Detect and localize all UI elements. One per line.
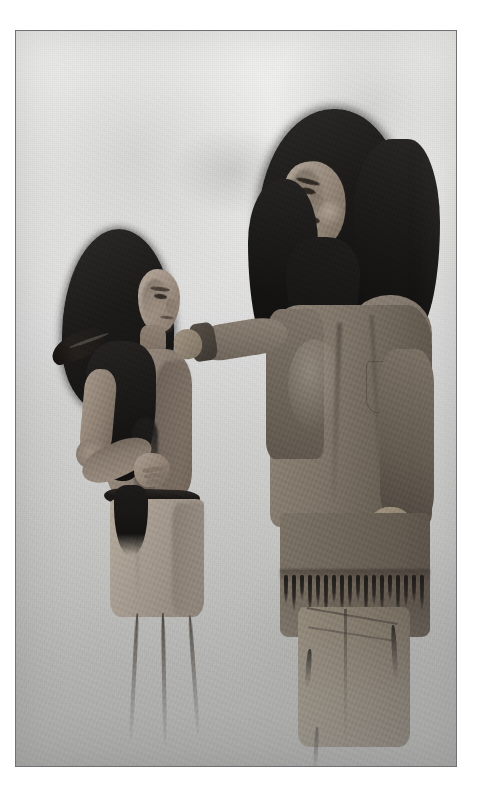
left-figure-kilt-shadow bbox=[172, 503, 206, 615]
left-figure-leg-contour bbox=[129, 613, 140, 741]
left-figure-leg-contour bbox=[161, 613, 167, 745]
page-root bbox=[0, 0, 484, 792]
right-figure-legging-split bbox=[344, 609, 347, 745]
artwork-canvas bbox=[16, 31, 456, 766]
right-figure-cheek-highlight bbox=[318, 201, 344, 227]
right-figure-hanging-arm bbox=[380, 349, 434, 521]
artwork-frame bbox=[15, 30, 457, 767]
left-figure-nose bbox=[166, 299, 177, 313]
left-figure-leg-contour bbox=[188, 615, 200, 735]
left-figure bbox=[46, 221, 236, 761]
right-figure bbox=[248, 109, 456, 759]
